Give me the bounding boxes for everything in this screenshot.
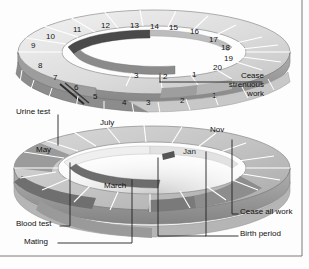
month-label-march: March — [104, 182, 126, 191]
callout-mating: Mating — [24, 238, 48, 247]
week-number-4: 4 — [122, 99, 126, 108]
week-number-15: 15 — [169, 24, 178, 33]
week-number-12: 12 — [101, 22, 110, 31]
week-number-17: 17 — [209, 36, 218, 45]
callout-cease-strenuous-work-line3: work — [200, 90, 264, 99]
week-number-8: 8 — [38, 62, 42, 71]
week-number-6: 6 — [74, 84, 78, 93]
week-number-16: 16 — [190, 28, 199, 37]
callout-blood-test: Blood test — [16, 220, 52, 229]
week-number-2-inner: 2 — [163, 73, 167, 82]
week-number-9: 9 — [31, 42, 35, 51]
month-label-may: May — [36, 146, 51, 155]
month-label-nov: Nov — [210, 126, 224, 135]
month-label-jan: Jan — [183, 148, 196, 157]
month-label-july: July — [100, 119, 114, 128]
week-number-18: 18 — [221, 44, 230, 53]
week-number-14: 14 — [150, 23, 159, 32]
week-number-13: 13 — [130, 22, 139, 31]
callout-birth-period: Birth period — [240, 230, 281, 239]
week-number-5: 5 — [93, 93, 97, 102]
week-number-7: 7 — [53, 74, 57, 83]
week-number-3-inner: 3 — [134, 72, 138, 81]
week-number-1-inner: 1 — [192, 71, 196, 80]
callout-urine-test: Urine test — [16, 108, 50, 117]
week-number-2-outer: 2 — [180, 97, 184, 106]
week-number-19: 19 — [224, 55, 233, 64]
figure-container: 9 10 11 12 13 14 15 16 17 18 19 20 8 7 6… — [0, 0, 309, 269]
week-number-11: 11 — [73, 26, 81, 35]
week-number-3-outer: 3 — [146, 99, 150, 108]
lower-spiral-group — [10, 125, 294, 239]
week-number-10: 10 — [46, 33, 55, 42]
callout-cease-strenuous-work: Cease strenuous work — [200, 72, 264, 99]
callout-cease-all-work: Cease all work — [240, 208, 292, 217]
